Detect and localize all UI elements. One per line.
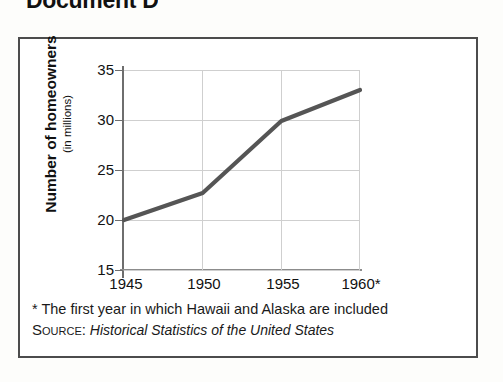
x-tick-label: 1950 [187, 275, 220, 292]
x-tick-label: 1945 [109, 275, 142, 292]
y-tick-mark [115, 220, 123, 221]
y-tick-mark [115, 170, 123, 171]
footnote-asterisk-note: * The first year in which Hawaii and Ala… [32, 300, 468, 319]
y-tick-label: 30 [84, 111, 114, 128]
plot-area [124, 70, 360, 270]
footnote-block: * The first year in which Hawaii and Ala… [32, 300, 468, 339]
y-tick-mark [115, 270, 123, 271]
y-axis-title: Number of homeowners (in millions) [37, 24, 79, 224]
y-tick-label: 20 [84, 211, 114, 228]
x-tick-label: 1960* [341, 275, 380, 292]
y-axis-title-sub: (in millions) [61, 95, 73, 153]
y-tick-mark [115, 70, 123, 71]
page-title: Document D [26, 0, 158, 9]
gridline-horizontal [124, 270, 360, 271]
data-series-line [124, 70, 360, 270]
y-tick-label: 25 [84, 161, 114, 178]
y-tick-label: 35 [84, 61, 114, 78]
line-chart: Number of homeowners (in millions) 35 30… [20, 39, 476, 297]
figure-box: Number of homeowners (in millions) 35 30… [18, 37, 478, 358]
source-title: Historical Statistics of the United Stat… [90, 322, 334, 338]
footnote-source: Source: Historical Statistics of the Uni… [32, 320, 468, 340]
x-tick-label: 1955 [266, 275, 299, 292]
source-label: Source: [32, 321, 86, 338]
y-axis-title-main: Number of homeowners [43, 35, 59, 212]
y-tick-mark [115, 120, 123, 121]
